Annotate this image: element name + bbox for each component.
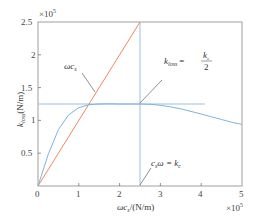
svg-text:2.5: 2.5 [21,17,33,27]
svg-text:2: 2 [204,62,209,72]
annotation-pointer-kloss [140,80,162,103]
x-exponent-label: ×105 [226,202,243,213]
svg-text:5: 5 [239,189,244,199]
annotation-pointer-cs [140,168,151,185]
svg-text:ωcs/(N/m): ωcs/(N/m) [117,202,154,213]
svg-text:kloss=: kloss= [164,56,184,67]
y-tick-labels: 0.5 1 1.5 2 2.5 [21,17,36,158]
y-axis-label: kloss(N/m) [15,92,26,127]
svg-text:1.5: 1.5 [21,83,33,93]
svg-text:kc: kc [203,50,210,61]
annotation-kloss-eq: kloss= kc 2 [164,50,212,72]
x-tick-labels: 0 1 2 3 4 5 [35,189,244,199]
svg-text:2: 2 [117,189,122,199]
svg-text:0.5: 0.5 [21,148,33,158]
annotation-cs-omega-kc: csω = kc [151,158,181,169]
y-exponent-label: ×105 [39,8,56,19]
svg-text:2: 2 [31,50,36,60]
annotation-omega-cs: ωcs [64,61,77,72]
svg-text:1: 1 [76,189,81,199]
svg-text:0: 0 [35,189,40,199]
svg-text:1: 1 [31,115,36,125]
annotation-pointer-omega-cs [82,73,95,92]
x-axis-label: ωcs/(N/m) [117,202,154,213]
svg-text:3: 3 [158,189,163,199]
svg-text:4: 4 [198,189,203,199]
svg-text:kloss(N/m): kloss(N/m) [15,92,26,127]
svg-text:×105: ×105 [226,202,243,213]
svg-text:×105: ×105 [39,8,56,19]
chart: 0 1 2 3 4 5 0.5 1 1.5 2 2.5 ×105 ×105 kl… [0,0,254,218]
